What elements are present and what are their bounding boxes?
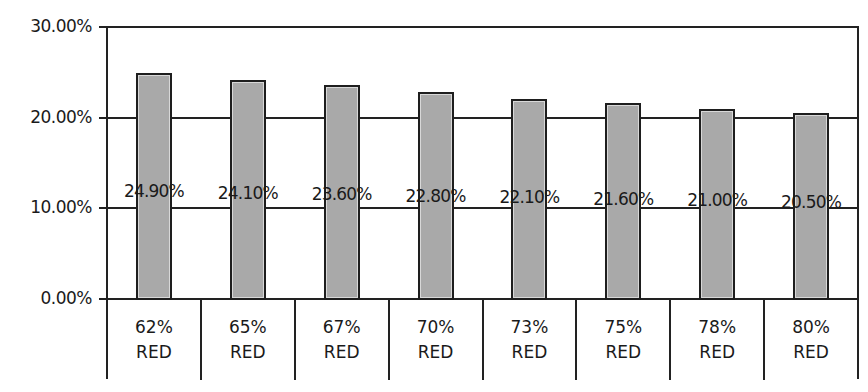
category-label: 78%RED bbox=[670, 315, 764, 365]
y-tick-label: 0.00% bbox=[0, 288, 92, 308]
category-label: 73%RED bbox=[483, 315, 577, 365]
category-suffix: RED bbox=[670, 340, 764, 365]
category-suffix: RED bbox=[576, 340, 670, 365]
category-percent: 75% bbox=[576, 315, 670, 340]
category-percent: 80% bbox=[764, 315, 858, 340]
y-tick-label: 30.00% bbox=[0, 16, 92, 36]
category-suffix: RED bbox=[107, 340, 201, 365]
gridline bbox=[99, 117, 859, 119]
category-label: 65%RED bbox=[201, 315, 295, 365]
bar-chart: 0.00%10.00%20.00%30.00%24.90%62%RED24.10… bbox=[0, 0, 868, 392]
y-tick-label: 10.00% bbox=[0, 197, 92, 217]
y-tick-label: 20.00% bbox=[0, 107, 92, 127]
category-label: 67%RED bbox=[295, 315, 389, 365]
category-suffix: RED bbox=[389, 340, 483, 365]
category-suffix: RED bbox=[201, 340, 295, 365]
category-label: 70%RED bbox=[389, 315, 483, 365]
category-label: 80%RED bbox=[764, 315, 858, 365]
category-suffix: RED bbox=[295, 340, 389, 365]
data-label: 20.50% bbox=[756, 192, 866, 212]
category-percent: 65% bbox=[201, 315, 295, 340]
category-percent: 67% bbox=[295, 315, 389, 340]
gridline bbox=[99, 26, 859, 28]
x-axis-line bbox=[99, 298, 859, 300]
category-label: 75%RED bbox=[576, 315, 670, 365]
category-percent: 73% bbox=[483, 315, 577, 340]
category-percent: 70% bbox=[389, 315, 483, 340]
category-percent: 62% bbox=[107, 315, 201, 340]
category-suffix: RED bbox=[483, 340, 577, 365]
category-label: 62%RED bbox=[107, 315, 201, 365]
category-suffix: RED bbox=[764, 340, 858, 365]
category-percent: 78% bbox=[670, 315, 764, 340]
